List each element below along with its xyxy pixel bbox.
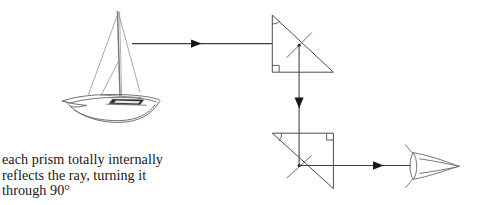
prism-bottom	[272, 133, 333, 188]
prism-top-right-angle-marker	[272, 65, 279, 72]
boat-mast-icon	[118, 12, 122, 97]
figure-caption: each prism totally internally reflects t…	[2, 152, 212, 199]
sailboat	[63, 12, 161, 123]
prism-top	[272, 15, 333, 72]
ray-incoming-arrowhead-icon	[191, 39, 202, 47]
ray-between-prisms-arrowhead-icon	[295, 98, 304, 109]
boat-hull-icon	[63, 94, 161, 122]
boat-cockpit-icon	[107, 99, 147, 105]
boat-rigging-icon	[89, 13, 141, 96]
eye-icon	[405, 145, 459, 188]
figure-canvas: Total internal reflection in two prisms …	[0, 0, 480, 205]
ray-outgoing-arrowhead-icon	[373, 161, 384, 169]
prism-bottom-right-angle-marker	[327, 133, 334, 140]
